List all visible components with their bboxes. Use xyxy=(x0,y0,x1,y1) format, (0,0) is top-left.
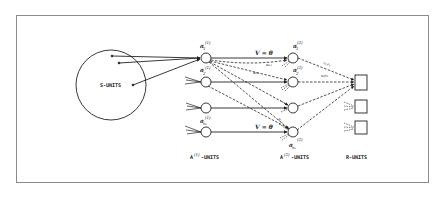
svg-text:nₐ: nₐ xyxy=(203,121,208,126)
a2-to-r-connections xyxy=(297,58,354,130)
s-to-a1-connections xyxy=(111,55,200,86)
a2-node-3 xyxy=(288,103,298,113)
a1-node-2 xyxy=(201,77,211,87)
svg-text:(2): (2) xyxy=(297,65,303,70)
s-units-circle: S-UNITS xyxy=(76,50,146,120)
a1-input-fans xyxy=(185,77,201,134)
svg-text:(1): (1) xyxy=(205,115,211,120)
a1-node-n xyxy=(201,127,211,137)
svg-text:(1): (1) xyxy=(205,65,211,70)
a2-input-ticks xyxy=(279,61,290,140)
r-units xyxy=(355,75,367,134)
a1-node-1 xyxy=(201,53,211,63)
weight-v-bottom: V = θ xyxy=(255,123,273,130)
svg-text:(2): (2) xyxy=(297,40,303,45)
svg-text:2: 2 xyxy=(202,71,206,76)
r-input-ticks xyxy=(344,102,354,131)
a2-node-2 xyxy=(288,77,298,87)
a2-node-n xyxy=(288,127,298,137)
svg-text:1: 1 xyxy=(296,46,299,51)
weight-u12: u₁₂ xyxy=(253,70,259,75)
svg-text:(2): (2) xyxy=(297,137,303,142)
r-units-label: R-UNITS xyxy=(346,154,367,160)
a1-to-a2-dashed xyxy=(208,60,289,129)
r-unit-3 xyxy=(355,121,367,134)
a2-units-label: A xyxy=(280,154,283,160)
perceptron-diagram: S-UNITS a 1 (1) a 2 (1) a nₐ (1) xyxy=(0,0,448,198)
svg-text:nₐ: nₐ xyxy=(292,145,297,150)
a2-node-1 xyxy=(288,53,298,63)
svg-text:1: 1 xyxy=(203,46,206,51)
svg-text:-UNITS: -UNITS xyxy=(201,154,219,160)
weight-v-top: V = θ xyxy=(255,49,273,56)
weight-v1r1: v₁r₁ xyxy=(323,60,332,67)
s-units-label: S-UNITS xyxy=(100,82,121,88)
r-unit-1 xyxy=(355,75,367,90)
svg-text:2: 2 xyxy=(295,71,299,76)
svg-text:(2): (2) xyxy=(284,152,290,157)
svg-text:(1): (1) xyxy=(205,40,211,45)
svg-text:(1): (1) xyxy=(194,152,200,157)
a1-units-label: A xyxy=(190,154,193,160)
svg-text:-UNITS: -UNITS xyxy=(291,154,309,160)
weight-u11: u₁₁ xyxy=(266,62,272,67)
layer-labels: A (1) -UNITS A (2) -UNITS R-UNITS xyxy=(190,152,367,160)
weight-u1n: u₁ₙ xyxy=(277,116,285,124)
r-unit-2 xyxy=(355,100,367,113)
a1-node-3 xyxy=(201,103,211,113)
weight-v2r1: v₂r₁ xyxy=(321,73,329,78)
